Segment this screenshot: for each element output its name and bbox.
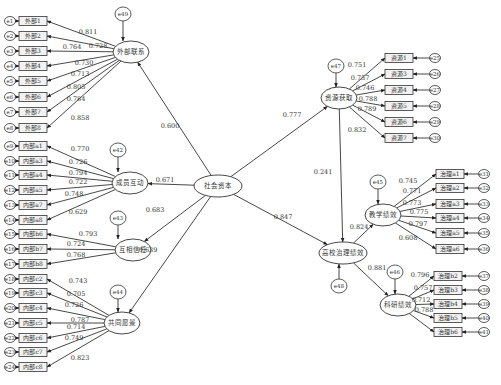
path-coefficient: 0.824 [350, 223, 369, 231]
loading-coefficient: 0.745 [399, 177, 418, 185]
loading-coefficient: 0.788 [415, 306, 434, 314]
observed-variable-label: 内部a4 [23, 171, 43, 179]
loading-coefficient: 0.768 [67, 251, 86, 259]
error-term-label: e24 [5, 364, 16, 370]
error-term-label: e30 [430, 135, 441, 141]
latent-variable-label: 共同愿景 [108, 318, 136, 327]
error-term-label: e4 [7, 63, 14, 69]
disturbance-term-label: e43 [113, 215, 124, 221]
loading-coefficient: 0.770 [71, 145, 90, 153]
observed-variable-label: 外部5 [25, 77, 41, 85]
observed-variable-label: 治理a6 [440, 245, 460, 253]
observed-variable-label: 治理b4 [438, 300, 458, 308]
observed-variable-label: 资源1 [391, 54, 407, 62]
loading-coefficient: 0.712 [412, 296, 431, 304]
disturbance-term-label: e45 [373, 179, 384, 185]
error-term-label: e26 [430, 71, 441, 77]
disturbance-term-label: e49 [118, 11, 129, 17]
error-term-label: e28 [430, 103, 441, 109]
structural-path [138, 62, 212, 175]
loading-coefficient: 0.811 [79, 28, 98, 36]
error-term-label: e8 [7, 125, 14, 131]
observed-variable-label: 治理b5 [438, 314, 458, 322]
diagram-canvas: 外部1e10.811外部2e20.728外部3e30.764外部4e40.730… [0, 0, 501, 385]
observed-variable-label: 治理a2 [440, 184, 460, 192]
error-term-label: e36 [479, 246, 490, 252]
loading-coefficient: 0.784 [67, 95, 86, 103]
observed-variable-label: 内部c7 [23, 348, 42, 356]
structural-path [339, 109, 342, 242]
observed-variable-label: 治理b3 [438, 286, 458, 294]
path-coefficient: 0.777 [283, 111, 302, 119]
path-coefficient: 0.600 [161, 122, 180, 130]
structural-path [231, 106, 328, 176]
error-term-label: e19 [5, 290, 16, 296]
disturbance-term-label: e47 [331, 63, 342, 69]
observed-variable-label: 内部a3 [23, 157, 43, 165]
loading-coefficient: 0.764 [63, 43, 82, 51]
observed-variable-label: 内部c5 [23, 319, 42, 327]
latent-variable-label: 资源获取 [325, 93, 353, 102]
latent-variable-label: 互相信任 [119, 245, 147, 254]
error-term-label: e9 [7, 143, 14, 149]
error-term-label: e1 [7, 18, 14, 24]
latent-variable-label: 高校治理绩效 [322, 248, 364, 257]
observed-variable-label: 内部b6 [23, 230, 43, 238]
loading-coefficient: 0.757 [414, 284, 433, 292]
latent-variable-label: 科研绩效 [384, 300, 412, 309]
error-term-label: e22 [5, 335, 15, 341]
loading-coefficient: 0.832 [348, 126, 367, 134]
loading-coefficient: 0.743 [69, 277, 88, 285]
latent-variable-label: 教学绩效 [369, 210, 397, 219]
loading-coefficient: 0.789 [358, 105, 377, 113]
loading-coefficient: 0.748 [65, 190, 84, 198]
path-coefficient: 0.241 [314, 168, 333, 176]
loading-coefficient: 0.705 [67, 290, 86, 298]
disturbance-term-label: e48 [334, 283, 345, 289]
loading-coefficient: 0.751 [348, 61, 367, 69]
structural-path [144, 195, 205, 241]
loading-coefficient: 0.788 [359, 95, 378, 103]
loading-path [47, 249, 115, 250]
observed-variable-label: 内部c4 [23, 304, 42, 312]
error-term-label: e13 [5, 202, 16, 208]
loading-coefficient: 0.823 [71, 354, 90, 362]
observed-variable-label: 治理a3 [440, 200, 460, 208]
loading-coefficient: 0.746 [356, 84, 375, 92]
observed-variable-label: 内部a8 [23, 216, 43, 224]
observed-variable-label: 外部6 [25, 93, 41, 101]
observed-variable-label: 外部3 [25, 47, 41, 55]
disturbance-term-label: e44 [113, 289, 124, 295]
error-term-label: e41 [479, 329, 489, 335]
observed-variable-label: 治理b6 [438, 328, 458, 336]
observed-variable-label: 内部a5 [23, 186, 43, 194]
error-term-label: e12 [5, 187, 15, 193]
observed-variable-label: 内部a7 [23, 201, 43, 209]
loading-coefficient: 0.629 [69, 208, 88, 216]
loading-coefficient: 0.722 [69, 178, 88, 186]
error-term-label: e14 [5, 217, 16, 223]
latent-variable-label: 外部联系 [117, 47, 145, 56]
loading-coefficient: 0.796 [411, 271, 430, 279]
error-term-label: e16 [5, 246, 16, 252]
loading-coefficient: 0.775 [410, 208, 429, 216]
observed-variable-label: 治理a4 [440, 214, 460, 222]
loading-coefficient: 0.728 [89, 42, 108, 50]
error-term-label: e38 [479, 287, 490, 293]
observed-variable-label: 内部a1 [23, 142, 42, 150]
observed-variable-label: 内部b7 [23, 245, 43, 253]
sem-path-diagram: 外部1e10.811外部2e20.728外部3e30.764外部4e40.730… [0, 0, 501, 385]
loading-coefficient: 0.771 [403, 187, 422, 195]
error-term-label: e6 [7, 94, 14, 100]
path-coefficient: 0.847 [274, 213, 293, 221]
observed-variable-label: 资源6 [391, 118, 407, 126]
observed-variable-label: 资源4 [391, 86, 407, 94]
error-term-label: e21 [5, 320, 15, 326]
observed-variable-label: 内部c2 [23, 275, 42, 283]
observed-variable-label: 外部2 [25, 32, 41, 40]
loading-coefficient: 0.726 [65, 301, 84, 309]
error-term-label: e29 [430, 119, 441, 125]
error-term-label: e3 [7, 48, 14, 54]
observed-variable-label: 外部8 [25, 124, 41, 132]
observed-variable-label: 内部c3 [23, 289, 42, 297]
